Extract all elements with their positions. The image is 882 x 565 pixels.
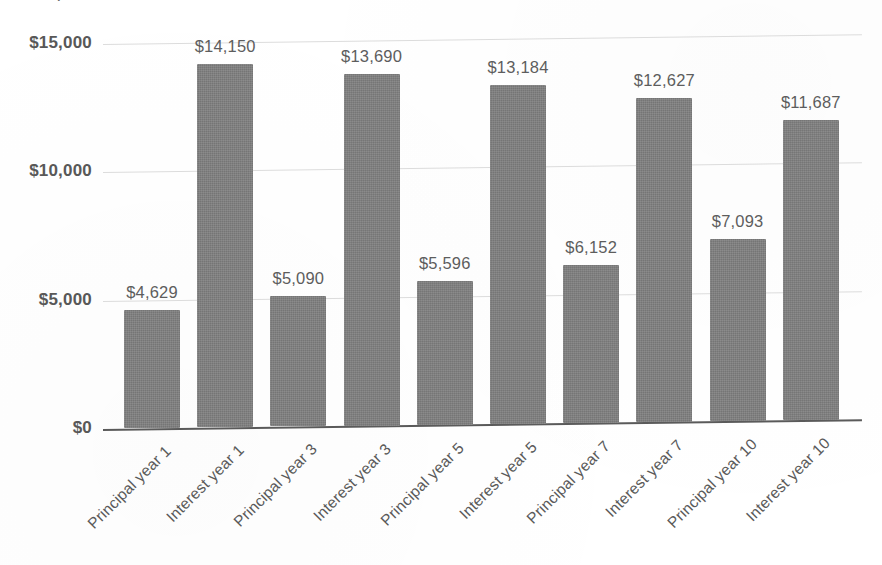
bar[interactable]: [563, 265, 619, 423]
y-axis-tick-labels: $0$5,000$10,000$15,000: [0, 0, 92, 565]
bar[interactable]: [124, 310, 180, 429]
y-axis-tick-label: $0: [73, 418, 92, 438]
bar-value-label: $5,090: [238, 269, 358, 288]
bar[interactable]: [417, 281, 473, 425]
bar[interactable]: [710, 239, 766, 421]
y-axis-tick-label: $10,000: [29, 161, 92, 181]
bar-value-label: $7,093: [678, 212, 798, 231]
bar-value-label: $12,627: [604, 71, 724, 90]
y-axis-tick-label: $5,000: [39, 290, 92, 310]
y-axis-tick-label: $15,000: [29, 33, 92, 53]
bar[interactable]: [344, 74, 400, 425]
bar[interactable]: [636, 98, 692, 422]
bar-value-label: $11,687: [751, 93, 871, 112]
bar[interactable]: [783, 120, 839, 420]
bar[interactable]: [270, 296, 326, 427]
bar-value-label: $14,150: [165, 37, 285, 56]
bar-value-label: $13,690: [312, 47, 432, 66]
bar-value-label: $4,629: [92, 283, 212, 302]
bar[interactable]: [197, 64, 253, 427]
bar-value-label: $13,184: [458, 58, 578, 77]
bar-chart: y $4,629$14,150$5,090$13,690$5,596$13,18…: [0, 0, 882, 565]
bar-value-label: $6,152: [531, 238, 651, 257]
bar-value-label: $5,596: [385, 254, 505, 273]
